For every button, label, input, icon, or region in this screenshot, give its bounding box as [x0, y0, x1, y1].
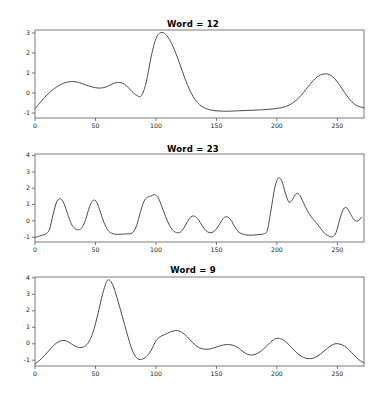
svg-text:100: 100 — [150, 370, 162, 377]
svg-text:3: 3 — [26, 29, 30, 36]
svg-text:2: 2 — [26, 49, 30, 56]
svg-text:0: 0 — [26, 339, 30, 346]
plot-canvas-2: -101234050100150200250 — [0, 132, 386, 264]
plot-canvas-3: -101234050100150200250 — [0, 264, 386, 397]
subplot-word-12: Word = 12 -10123050100150200250 — [0, 0, 386, 132]
svg-text:200: 200 — [271, 122, 283, 129]
svg-text:1: 1 — [26, 200, 30, 207]
svg-text:100: 100 — [150, 122, 162, 129]
svg-text:0: 0 — [33, 370, 37, 377]
svg-text:250: 250 — [331, 246, 343, 253]
svg-text:150: 150 — [211, 246, 223, 253]
svg-text:0: 0 — [26, 89, 30, 96]
svg-text:4: 4 — [26, 151, 30, 158]
plot-canvas-1: -10123050100150200250 — [0, 0, 386, 132]
svg-text:0: 0 — [33, 122, 37, 129]
series-line — [35, 280, 364, 364]
svg-text:1: 1 — [26, 323, 30, 330]
series-line — [35, 178, 362, 238]
svg-text:0: 0 — [26, 217, 30, 224]
subplot-word-23: Word = 23 -101234050100150200250 — [0, 132, 386, 264]
svg-text:-1: -1 — [24, 233, 30, 240]
svg-text:4: 4 — [26, 274, 30, 281]
svg-text:250: 250 — [331, 122, 343, 129]
svg-text:50: 50 — [92, 122, 100, 129]
svg-text:150: 150 — [211, 122, 223, 129]
matplotlib-figure: Word = 12 -10123050100150200250 Word = 2… — [0, 0, 386, 397]
svg-text:3: 3 — [26, 290, 30, 297]
svg-text:2: 2 — [26, 184, 30, 191]
series-line — [35, 32, 364, 111]
svg-text:250: 250 — [331, 370, 343, 377]
svg-text:-1: -1 — [24, 109, 30, 116]
svg-text:200: 200 — [271, 370, 283, 377]
svg-text:50: 50 — [92, 246, 100, 253]
svg-text:-1: -1 — [24, 356, 30, 363]
subplot-word-9: Word = 9 -101234050100150200250 — [0, 264, 386, 397]
svg-text:100: 100 — [150, 246, 162, 253]
svg-text:3: 3 — [26, 168, 30, 175]
svg-text:50: 50 — [92, 370, 100, 377]
svg-text:200: 200 — [271, 246, 283, 253]
svg-text:1: 1 — [26, 69, 30, 76]
svg-text:2: 2 — [26, 306, 30, 313]
svg-text:0: 0 — [33, 246, 37, 253]
svg-text:150: 150 — [211, 370, 223, 377]
